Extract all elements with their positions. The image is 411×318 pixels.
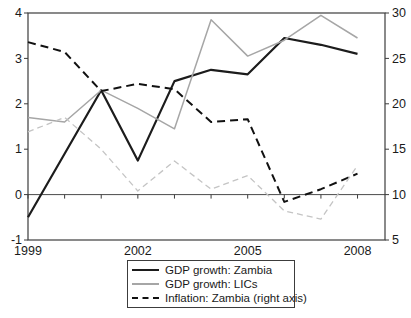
legend-item-gdp-lics: GDP growth: LICs <box>132 277 288 291</box>
series-line-1 <box>28 15 358 129</box>
x-axis-tick-label: 2008 <box>344 244 372 258</box>
gdp-zambia-line-swatch <box>132 269 159 271</box>
chart-canvas: 43210-1302520151051999200220052008 <box>0 0 411 260</box>
right-axis-tick-label: 30 <box>392 6 406 20</box>
chart-figure: 43210-1302520151051999200220052008 GDP g… <box>0 0 411 318</box>
left-axis-tick-label: 4 <box>15 6 22 20</box>
x-axis-tick-label: 1999 <box>14 244 42 258</box>
left-axis-tick-label: 0 <box>15 188 22 202</box>
legend-label-gdp-lics: GDP growth: LICs <box>165 278 257 291</box>
right-axis-tick-label: 10 <box>392 188 406 202</box>
left-axis-tick-label: 2 <box>15 97 22 111</box>
legend-label-inflation-zambia: Inflation: Zambia (right axis) <box>165 292 307 305</box>
x-axis-tick-label: 2002 <box>124 244 152 258</box>
right-axis-tick-label: 20 <box>392 97 406 111</box>
gdp-lics-line-swatch <box>132 283 159 285</box>
inflation-zambia-line-swatch <box>132 297 159 299</box>
right-axis-tick-label: 5 <box>392 233 399 247</box>
legend-label-gdp-zambia: GDP growth: Zambia <box>165 264 272 277</box>
legend-item-inflation-zambia: Inflation: Zambia (right axis) <box>132 291 288 305</box>
legend-item-gdp-zambia: GDP growth: Zambia <box>132 263 288 277</box>
series-line-2 <box>28 42 358 202</box>
x-axis-tick-label: 2005 <box>234 244 262 258</box>
left-axis-tick-label: 1 <box>15 142 22 156</box>
right-axis-tick-label: 25 <box>392 52 406 66</box>
right-axis-tick-label: 15 <box>392 142 406 156</box>
chart-legend: GDP growth: Zambia GDP growth: LICs Infl… <box>127 260 295 308</box>
left-axis-tick-label: 3 <box>15 52 22 66</box>
